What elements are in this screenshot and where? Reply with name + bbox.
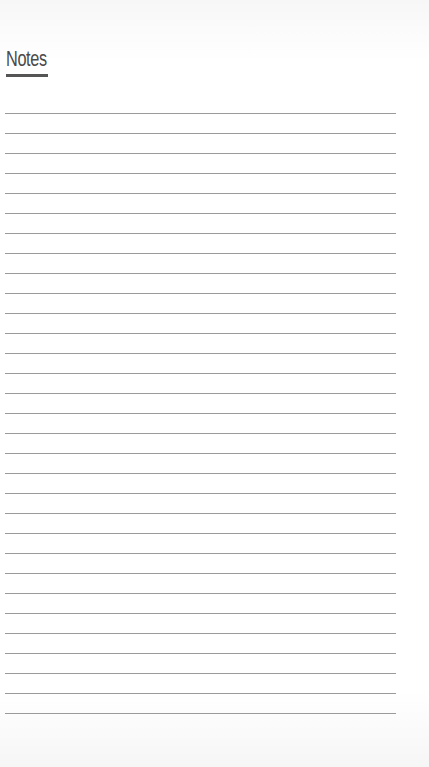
ruled-line — [5, 713, 396, 714]
ruled-line — [5, 393, 396, 394]
ruled-line — [5, 153, 396, 154]
ruled-line — [5, 173, 396, 174]
ruled-line — [5, 233, 396, 234]
ruled-line — [5, 333, 396, 334]
ruled-line — [5, 453, 396, 454]
ruled-line — [5, 553, 396, 554]
ruled-line — [5, 353, 396, 354]
ruled-line — [5, 253, 396, 254]
ruled-line — [5, 413, 396, 414]
notes-page: Notes — [0, 0, 429, 767]
ruled-line — [5, 373, 396, 374]
ruled-line — [5, 693, 396, 694]
ruled-line — [5, 513, 396, 514]
title-underline — [6, 74, 48, 77]
ruled-line — [5, 113, 396, 114]
ruled-line — [5, 293, 396, 294]
ruled-line — [5, 193, 396, 194]
ruled-line — [5, 473, 396, 474]
ruled-line — [5, 533, 396, 534]
ruled-line — [5, 313, 396, 314]
ruled-line — [5, 633, 396, 634]
ruled-line — [5, 673, 396, 674]
ruled-line — [5, 433, 396, 434]
ruled-line — [5, 133, 396, 134]
ruled-line — [5, 573, 396, 574]
ruled-line — [5, 613, 396, 614]
page-title: Notes — [6, 47, 47, 71]
ruled-line — [5, 213, 396, 214]
ruled-line — [5, 493, 396, 494]
ruled-line — [5, 593, 396, 594]
ruled-line — [5, 653, 396, 654]
ruled-line — [5, 273, 396, 274]
